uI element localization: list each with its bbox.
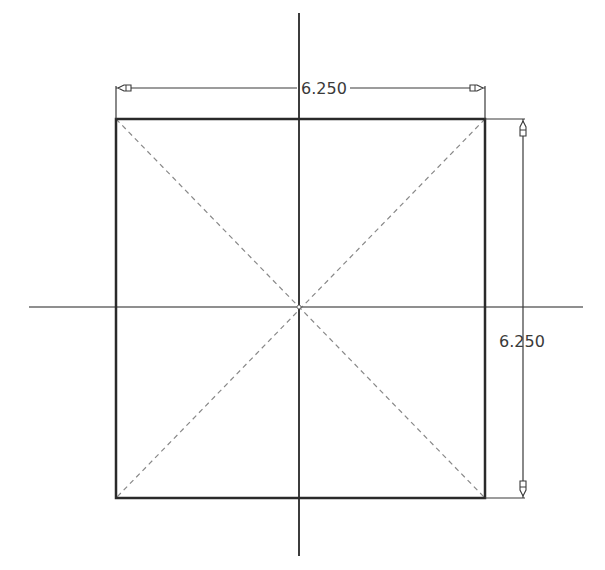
arrow-head-right-icon xyxy=(470,85,483,91)
arrow-head-left-icon xyxy=(118,85,131,91)
arrow-head-bottom-icon xyxy=(520,481,526,496)
horizontal-dimension[interactable]: 6.250 xyxy=(116,79,485,119)
vertical-dimension[interactable]: 6.250 xyxy=(485,119,549,498)
arrow-head-top-icon xyxy=(520,121,526,136)
vertical-dimension-label[interactable]: 6.250 xyxy=(499,332,545,351)
horizontal-dimension-label[interactable]: 6.250 xyxy=(301,79,347,98)
center-point[interactable] xyxy=(297,305,301,309)
sketch-canvas[interactable]: 6.250 6.250 xyxy=(0,0,605,570)
